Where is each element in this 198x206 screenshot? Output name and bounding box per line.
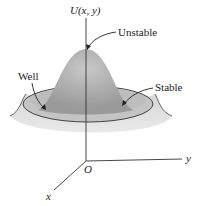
unstable-arrow [88, 32, 116, 48]
unstable-label: Unstable [118, 26, 157, 38]
y-axis [86, 159, 182, 161]
x-axis-label: x [46, 190, 51, 202]
u-axis-label: U(x, y) [70, 4, 101, 16]
y-axis-label: y [186, 152, 191, 164]
potential-surface-diagram [0, 0, 198, 206]
stable-label: Stable [155, 81, 183, 93]
well-label: Well [18, 70, 39, 82]
origin-label: O [84, 163, 92, 175]
x-axis [54, 161, 86, 190]
